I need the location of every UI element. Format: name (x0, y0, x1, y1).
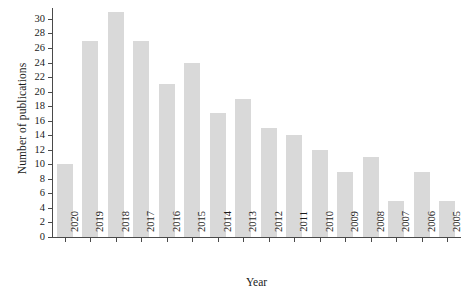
x-tick-mark (422, 238, 423, 242)
y-tick-mark (48, 121, 52, 122)
x-tick-mark (447, 238, 448, 242)
y-axis-spine (52, 8, 53, 238)
x-tick-label: 2018 (120, 211, 131, 245)
y-tick-mark (48, 33, 52, 34)
x-tick-mark (218, 238, 219, 242)
y-axis-tick: 10 (0, 164, 52, 165)
y-axis-tick: 4 (0, 208, 52, 209)
y-tick-label: 26 (35, 40, 46, 56)
y-tick-mark (48, 164, 52, 165)
y-tick-label: 16 (35, 113, 46, 129)
x-tick-label: 2015 (196, 211, 207, 245)
y-tick-label: 20 (35, 84, 46, 100)
y-tick-label: 10 (35, 156, 46, 172)
y-axis-tick: 8 (0, 179, 52, 180)
x-tick-mark (167, 238, 168, 242)
bar (82, 41, 98, 237)
x-tick-label: 2011 (298, 211, 309, 245)
x-tick-mark (243, 238, 244, 242)
y-axis-tick: 28 (0, 33, 52, 34)
y-axis-title: Number of publications (16, 0, 34, 237)
x-tick-label: 2013 (247, 211, 258, 245)
y-tick-mark (48, 208, 52, 209)
y-tick-label: 22 (35, 69, 46, 85)
x-tick-label: 2020 (69, 211, 80, 245)
x-tick-mark (141, 238, 142, 242)
x-tick-mark (396, 238, 397, 242)
y-axis-tick: 2 (0, 222, 52, 223)
x-tick-mark (294, 238, 295, 242)
y-tick-mark (48, 222, 52, 223)
y-axis-tick: 0 (0, 237, 52, 238)
y-tick-label: 28 (35, 25, 46, 41)
y-tick-label: 24 (35, 55, 46, 71)
y-tick-mark (48, 92, 52, 93)
y-axis-tick: 20 (0, 92, 52, 93)
y-tick-mark (48, 237, 52, 238)
y-axis-tick: 16 (0, 121, 52, 122)
y-tick-mark (48, 63, 52, 64)
y-axis-tick: 26 (0, 48, 52, 49)
y-tick-mark (48, 19, 52, 20)
x-tick-label: 2006 (426, 211, 437, 245)
y-tick-label: 18 (35, 98, 46, 114)
y-tick-label: 0 (40, 229, 45, 245)
x-tick-label: 2019 (94, 211, 105, 245)
x-tick-label: 2010 (324, 211, 335, 245)
x-tick-label: 2005 (451, 211, 462, 245)
y-tick-mark (48, 150, 52, 151)
y-tick-label: 4 (40, 200, 45, 216)
x-tick-mark (116, 238, 117, 242)
x-tick-label: 2009 (349, 211, 360, 245)
x-axis-title: Year (52, 276, 461, 288)
bar (108, 12, 124, 237)
y-tick-label: 2 (40, 214, 45, 230)
bar-chart: Number of publications 02468101214161820… (0, 0, 470, 295)
x-tick-label: 2008 (375, 211, 386, 245)
x-tick-mark (345, 238, 346, 242)
x-tick-label: 2016 (171, 211, 182, 245)
y-tick-mark (48, 48, 52, 49)
y-tick-mark (48, 106, 52, 107)
bar (133, 41, 149, 237)
y-tick-mark (48, 135, 52, 136)
x-tick-label: 2017 (145, 211, 156, 245)
x-tick-mark (320, 238, 321, 242)
y-tick-mark (48, 179, 52, 180)
x-tick-mark (90, 238, 91, 242)
y-axis-tick: 6 (0, 193, 52, 194)
y-axis-tick: 30 (0, 19, 52, 20)
y-tick-label: 30 (35, 11, 46, 27)
x-tick-label: 2014 (222, 211, 233, 245)
x-tick-mark (269, 238, 270, 242)
y-axis-tick: 24 (0, 63, 52, 64)
y-tick-label: 6 (40, 185, 45, 201)
y-tick-label: 8 (40, 171, 45, 187)
x-tick-label: 2007 (400, 211, 411, 245)
x-tick-mark (65, 238, 66, 242)
x-tick-mark (371, 238, 372, 242)
y-tick-label: 12 (35, 142, 46, 158)
y-tick-label: 14 (35, 127, 46, 143)
y-tick-mark (48, 77, 52, 78)
y-axis-tick: 22 (0, 77, 52, 78)
y-tick-mark (48, 193, 52, 194)
y-axis-tick: 14 (0, 135, 52, 136)
y-axis-tick: 18 (0, 106, 52, 107)
x-tick-mark (192, 238, 193, 242)
y-axis-tick: 12 (0, 150, 52, 151)
x-tick-label: 2012 (273, 211, 284, 245)
